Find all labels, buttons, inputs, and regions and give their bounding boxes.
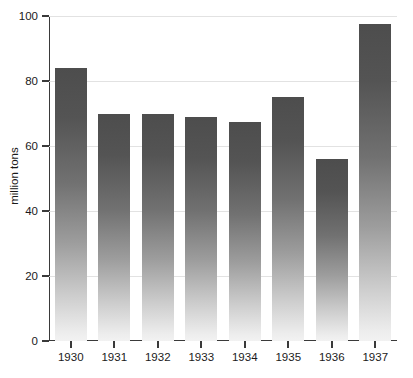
bar bbox=[272, 97, 304, 341]
y-axis-label: 60 bbox=[0, 140, 38, 152]
y-axis-tick bbox=[42, 275, 49, 277]
y-axis-label: 0 bbox=[0, 335, 38, 347]
gridline bbox=[49, 81, 397, 82]
bar bbox=[229, 122, 261, 341]
x-axis-tick bbox=[374, 341, 376, 348]
y-axis-label: 20 bbox=[0, 270, 38, 282]
x-axis-tick bbox=[244, 341, 246, 348]
y-axis-label: 80 bbox=[0, 75, 38, 87]
x-axis-label: 1937 bbox=[350, 351, 400, 363]
x-axis-label: 1931 bbox=[89, 351, 139, 363]
x-axis-tick bbox=[200, 341, 202, 348]
bar bbox=[359, 24, 391, 341]
y-axis-label: 100 bbox=[0, 10, 38, 22]
x-axis-tick bbox=[113, 341, 115, 348]
x-axis-label: 1930 bbox=[46, 351, 96, 363]
y-axis-title: million tons bbox=[8, 11, 26, 341]
x-axis-tick bbox=[287, 341, 289, 348]
bar bbox=[316, 159, 348, 341]
bar bbox=[98, 114, 130, 342]
bar-chart: million tons 020406080100 19301931193219… bbox=[0, 0, 413, 378]
y-axis-tick bbox=[42, 340, 49, 342]
x-axis-label: 1935 bbox=[263, 351, 313, 363]
gridline bbox=[49, 16, 397, 17]
x-axis-tick bbox=[157, 341, 159, 348]
y-axis-tick bbox=[42, 145, 49, 147]
x-axis-label: 1934 bbox=[220, 351, 270, 363]
x-axis-label: 1932 bbox=[133, 351, 183, 363]
x-axis-label: 1933 bbox=[176, 351, 226, 363]
x-axis-tick bbox=[70, 341, 72, 348]
y-axis-label: 40 bbox=[0, 205, 38, 217]
y-axis-tick bbox=[42, 80, 49, 82]
bar bbox=[185, 117, 217, 341]
bar bbox=[142, 114, 174, 342]
y-axis-tick bbox=[42, 210, 49, 212]
x-axis-label: 1936 bbox=[307, 351, 357, 363]
x-axis-tick bbox=[331, 341, 333, 348]
bar bbox=[55, 68, 87, 341]
y-axis-tick bbox=[42, 15, 49, 17]
